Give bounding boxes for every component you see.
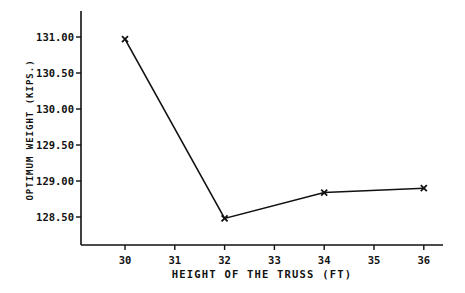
axes: [81, 11, 443, 245]
data-series: [122, 36, 427, 221]
x-tick-label: 35: [368, 254, 381, 266]
x-axis-label: HEIGHT OF THE TRUSS (FT): [172, 268, 353, 280]
x-tick-label: 30: [119, 254, 132, 266]
x-tick-label: 34: [318, 254, 331, 266]
y-tick-label: 130.00: [36, 103, 74, 115]
line-chart: 128.50129.00129.50130.00130.50131.00 303…: [0, 0, 465, 293]
y-tick-label: 129.50: [36, 139, 74, 151]
y-axis-label: OPTIMUM WEIGHT (KIPS.): [25, 59, 35, 200]
x-tick-label: 36: [417, 254, 430, 266]
x-marker: [122, 36, 128, 42]
y-axis-ticks: 128.50129.00129.50130.00130.50131.00: [36, 31, 81, 223]
y-tick-label: 131.00: [36, 31, 74, 43]
x-axis-ticks: 30313233343536: [119, 245, 430, 266]
y-tick-label: 130.50: [36, 67, 74, 79]
x-tick-label: 31: [168, 254, 181, 266]
y-tick-label: 129.00: [36, 175, 74, 187]
x-tick-label: 32: [218, 254, 231, 266]
series-line: [125, 39, 424, 218]
x-tick-label: 33: [268, 254, 281, 266]
y-tick-label: 128.50: [36, 211, 74, 223]
